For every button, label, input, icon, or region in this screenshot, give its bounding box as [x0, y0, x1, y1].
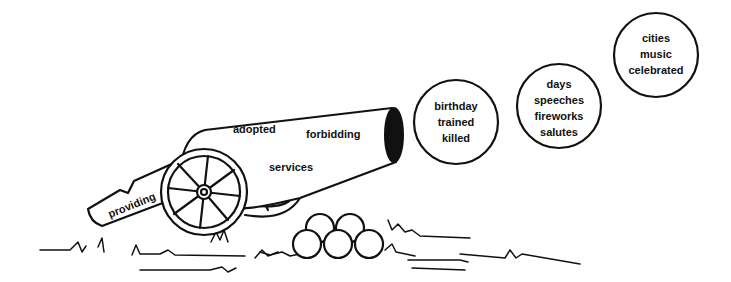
word-circle-2: days speeches fireworks salutes — [517, 64, 601, 148]
circle-word: salutes — [540, 126, 578, 138]
cannonball-stack — [293, 214, 383, 258]
circle-word: trained — [438, 116, 475, 128]
circle-word: days — [546, 78, 571, 90]
circle-word: celebrated — [628, 64, 683, 76]
cannon-word: services — [269, 161, 313, 173]
cannon-wheel — [161, 149, 247, 235]
cannon-word: forbidding — [306, 128, 360, 140]
circle-word: killed — [442, 132, 470, 144]
circle-word: cities — [642, 32, 670, 44]
cannon-word-diagram: adopted forbidding services providing bi… — [0, 0, 731, 282]
circle-word: fireworks — [535, 110, 584, 122]
cannon-muzzle — [385, 108, 403, 162]
cannon-word: adopted — [233, 123, 276, 135]
circle-word: music — [640, 48, 672, 60]
word-circle-1: birthday trained killed — [414, 80, 498, 164]
circle-word: birthday — [434, 100, 478, 112]
word-circle-3: cities music celebrated — [614, 13, 698, 97]
circle-word: speeches — [534, 94, 584, 106]
